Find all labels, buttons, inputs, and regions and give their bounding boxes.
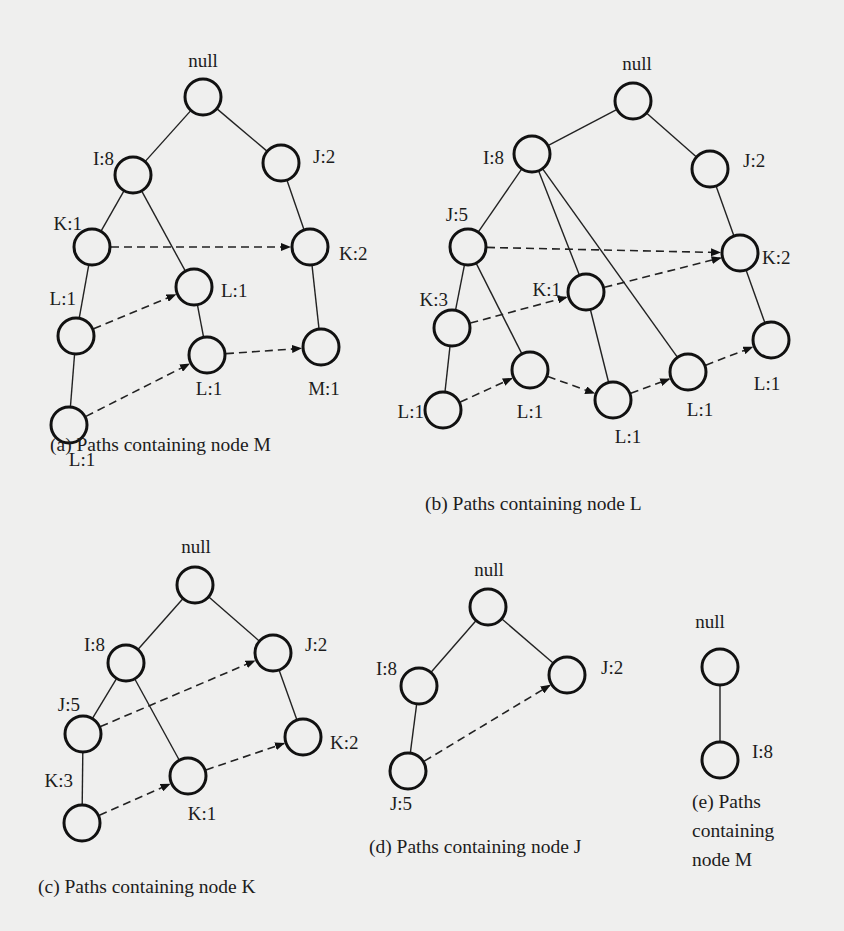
tree-edge xyxy=(145,110,191,161)
node-label: null xyxy=(181,536,211,557)
node-label: I:8 xyxy=(483,147,504,168)
tree-node-root xyxy=(470,589,506,625)
node-link-arrow xyxy=(424,685,550,761)
node-link-arrow xyxy=(631,379,669,393)
node-link-arrow xyxy=(548,376,594,393)
node-label: K:1 xyxy=(533,279,562,300)
node-label: J:2 xyxy=(743,150,765,171)
tree-node-I8 xyxy=(702,742,738,778)
fp-tree-figure: nullI:8J:2K:1K:2L:1L:1L:1M:1L:1(a) Paths… xyxy=(0,0,844,931)
panel-c: nullI:8J:2J:5K:2K:1K:3(c) Paths containi… xyxy=(38,536,359,898)
tree-node-root xyxy=(185,79,221,115)
tree-edge xyxy=(217,109,268,152)
panel-caption: (e) Paths xyxy=(692,791,761,813)
tree-edge xyxy=(542,169,677,358)
tree-edge xyxy=(79,265,89,319)
node-link-arrow xyxy=(706,347,753,365)
tree-edge xyxy=(548,109,617,145)
node-label: K:1 xyxy=(54,213,83,234)
panel-a: nullI:8J:2K:1K:2L:1L:1L:1M:1L:1(a) Paths… xyxy=(50,50,368,470)
panel-d: nullI:8J:2J:5(d) Paths containing node J xyxy=(369,559,623,858)
node-label: J:5 xyxy=(58,694,80,715)
tree-edge xyxy=(82,752,83,805)
node-label: J:5 xyxy=(390,793,412,814)
tree-node-L1m xyxy=(176,269,212,305)
node-link-arrow xyxy=(99,784,169,815)
tree-node-Lb xyxy=(595,382,631,418)
node-label: J:2 xyxy=(313,146,335,167)
node-label: L:1 xyxy=(517,401,543,422)
tree-edge xyxy=(502,619,554,664)
tree-edge xyxy=(92,678,116,718)
node-label: K:2 xyxy=(762,247,791,268)
panel-caption: node M xyxy=(692,849,752,870)
tree-node-K2 xyxy=(285,719,321,755)
node-label: L:1 xyxy=(196,378,222,399)
node-label: K:2 xyxy=(330,732,359,753)
node-label: L:1 xyxy=(754,373,780,394)
tree-edge xyxy=(138,598,183,649)
tree-node-J2 xyxy=(263,145,299,181)
node-label: K:2 xyxy=(339,243,368,264)
node-label: null xyxy=(622,53,652,74)
tree-edge xyxy=(431,621,476,673)
tree-edge xyxy=(197,305,203,338)
panel-caption: containing xyxy=(692,820,775,841)
node-link-arrow xyxy=(94,295,176,329)
node-link-arrow xyxy=(604,258,720,287)
node-label: L:1 xyxy=(615,426,641,447)
tree-edge xyxy=(476,263,522,354)
node-label: L:1 xyxy=(221,280,247,301)
tree-node-M1 xyxy=(303,329,339,365)
tree-node-I8 xyxy=(401,668,437,704)
node-link-arrow xyxy=(206,743,284,769)
tree-node-Lr xyxy=(753,322,789,358)
tree-edge xyxy=(716,186,734,236)
panel-caption: (b) Paths containing node L xyxy=(425,493,642,515)
tree-node-K3 xyxy=(64,805,100,841)
node-label: I:8 xyxy=(84,634,105,655)
tree-edge xyxy=(410,704,416,753)
tree-node-I8 xyxy=(115,157,151,193)
tree-node-J5 xyxy=(390,753,426,789)
node-label: I:8 xyxy=(93,148,114,169)
tree-node-Ll xyxy=(425,392,461,428)
tree-node-L1lm xyxy=(189,337,225,373)
tree-edge xyxy=(646,113,696,157)
node-label: null xyxy=(474,559,504,580)
tree-edge xyxy=(746,270,765,323)
tree-node-L1l xyxy=(58,318,94,354)
node-label: I:8 xyxy=(376,658,397,679)
tree-edge xyxy=(209,597,260,641)
tree-node-root xyxy=(702,649,738,685)
tree-node-J2 xyxy=(255,635,291,671)
tree-edge xyxy=(445,346,450,392)
node-label: null xyxy=(695,611,725,632)
node-label: I:8 xyxy=(752,741,773,762)
node-link-arrow xyxy=(487,247,720,252)
tree-edge xyxy=(455,265,464,311)
tree-edge xyxy=(101,191,124,232)
node-label: K:3 xyxy=(45,770,74,791)
node-label: J:2 xyxy=(305,634,327,655)
tree-node-J2 xyxy=(692,151,728,187)
tree-edge xyxy=(539,171,580,275)
tree-node-root xyxy=(615,83,651,119)
node-link-arrow xyxy=(226,348,301,353)
tree-node-J2 xyxy=(549,657,585,693)
tree-node-La xyxy=(512,352,548,388)
tree-node-K3 xyxy=(434,310,470,346)
tree-node-Lc xyxy=(670,354,706,390)
panel-caption: (c) Paths containing node K xyxy=(38,876,256,898)
node-link-arrow xyxy=(86,364,189,416)
tree-node-J5 xyxy=(65,716,101,752)
tree-edge xyxy=(287,180,304,230)
panel-caption: (a) Paths containing node M xyxy=(50,434,271,456)
tree-node-K2 xyxy=(722,235,758,271)
tree-edge xyxy=(135,679,180,760)
tree-node-I8 xyxy=(108,645,144,681)
tree-node-I8 xyxy=(514,136,550,172)
tree-edge xyxy=(70,354,74,407)
tree-node-K1 xyxy=(74,229,110,265)
tree-node-root xyxy=(177,567,213,603)
